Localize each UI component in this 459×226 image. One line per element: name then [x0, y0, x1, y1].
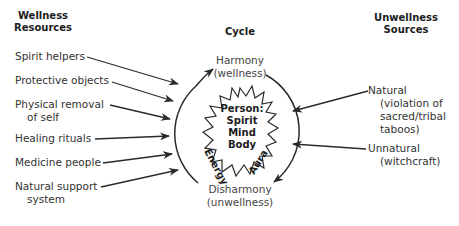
source-natural: Natural (violation of sacred/tribal tabo…	[368, 84, 446, 136]
header-cycle: Cycle	[215, 26, 265, 38]
arrow-natural-support	[101, 170, 178, 187]
arrow-physical-removal	[110, 105, 170, 119]
arrow-unnatural	[293, 144, 366, 149]
arrow-healing-rituals	[95, 136, 169, 139]
resource-medicine-people: Medicine people	[15, 156, 101, 169]
state-disharmony: Disharmony (unwellness)	[195, 183, 285, 209]
resource-protective-objects: Protective objects	[15, 74, 109, 87]
resource-natural-support: Natural support system	[15, 180, 97, 206]
state-harmony: Harmony (wellness)	[200, 54, 280, 80]
energy-arc	[175, 69, 213, 183]
arrow-protective-objects	[112, 82, 173, 101]
resource-healing-rituals: Healing rituals	[15, 132, 91, 145]
source-unnatural: Unnatural (witchcraft)	[368, 142, 440, 168]
arrow-natural	[293, 91, 368, 111]
resource-physical-removal: Physical removal of self	[15, 98, 104, 124]
arrow-medicine-people	[103, 154, 172, 163]
header-wellness-resources: Wellness Resources	[8, 10, 78, 34]
resource-spirit-helpers: Spirit helpers	[15, 50, 85, 63]
person-label: Person: Spirit Mind Body	[210, 103, 274, 151]
header-unwellness-sources: Unwellness Sources	[366, 12, 446, 36]
